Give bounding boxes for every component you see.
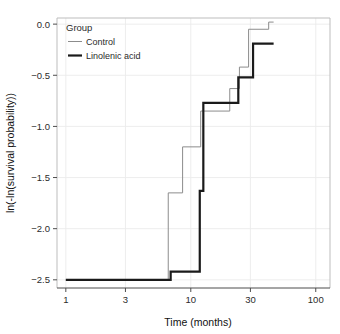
chart-canvas: 1310301000.0−0.5−1.0−1.5−2.0−2.5 GroupCo… — [0, 0, 340, 334]
survival-log-log-chart: 1310301000.0−0.5−1.0−1.5−2.0−2.5 GroupCo… — [0, 0, 340, 334]
x-tick-label-100: 100 — [308, 294, 324, 305]
x-tick-label-30: 30 — [245, 294, 256, 305]
y-axis-title: ln(-ln(survival probability)) — [4, 93, 16, 213]
legend-title: Group — [66, 22, 92, 33]
y-tick-label-0.0: 0.0 — [37, 19, 50, 30]
y-tick-label--2.5: −2.5 — [31, 274, 50, 285]
y-tick-label--2.0: −2.0 — [31, 223, 50, 234]
legend-label-linolenic-acid[interactable]: Linolenic acid — [86, 51, 141, 61]
x-axis-title: Time (months) — [164, 316, 231, 328]
y-tick-label--1.5: −1.5 — [31, 172, 50, 183]
y-tick-label--1.0: −1.0 — [31, 121, 50, 132]
x-tick-label-1: 1 — [63, 294, 68, 305]
y-tick-label--0.5: −0.5 — [31, 70, 50, 81]
legend-label-control[interactable]: Control — [86, 37, 115, 47]
x-tick-label-10: 10 — [186, 294, 197, 305]
x-tick-label-3: 3 — [123, 294, 128, 305]
